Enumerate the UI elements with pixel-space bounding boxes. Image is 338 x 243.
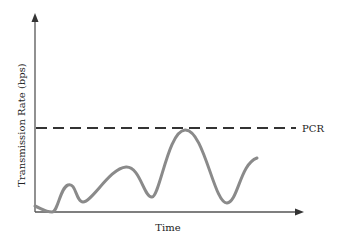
y-axis-label: Transmission Rate (bps)	[16, 63, 27, 186]
pcr-label: PCR	[302, 123, 324, 134]
x-axis-label: Time	[155, 222, 180, 233]
x-axis-arrow-icon	[295, 209, 304, 216]
transmission-rate-curve	[35, 130, 257, 212]
transmission-rate-chart: PCR Time Transmission Rate (bps)	[0, 0, 338, 243]
y-axis-arrow-icon	[32, 13, 39, 22]
